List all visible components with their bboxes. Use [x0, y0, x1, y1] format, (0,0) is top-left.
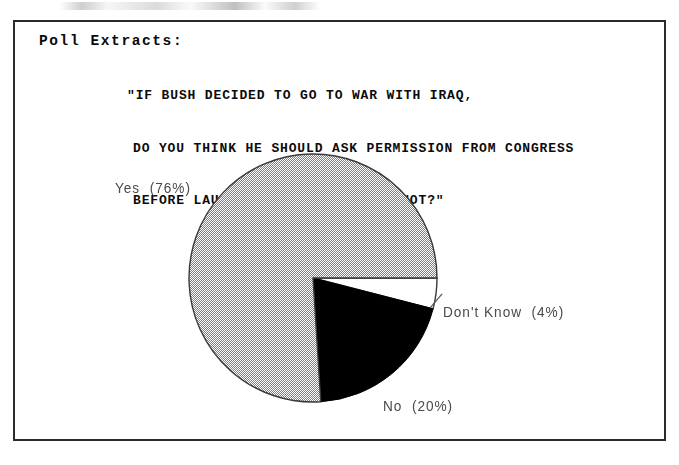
pie-chart-svg [15, 22, 668, 443]
slice-label-no: No (20%) [383, 397, 453, 415]
slice-label-dont-know: Don't Know (4%) [443, 303, 564, 321]
pie-chart: Yes (76%) Don't Know (4%) No (20%) [15, 22, 668, 443]
scan-noise-artifact [60, 2, 320, 10]
poll-extract-frame: Poll Extracts: "IF BUSH DECIDED TO GO TO… [13, 20, 666, 441]
slice-label-yes: Yes (76%) [115, 179, 191, 197]
